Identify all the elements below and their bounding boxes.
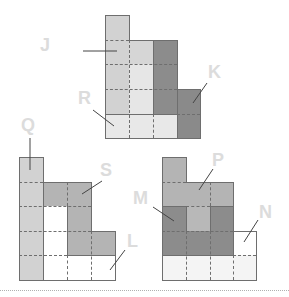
leader-m xyxy=(153,207,174,221)
leader-l xyxy=(110,250,125,270)
leader-p xyxy=(199,169,213,190)
leader-n xyxy=(244,220,258,242)
leader-k xyxy=(193,83,207,103)
leader-s xyxy=(82,181,102,194)
leader-r xyxy=(93,110,114,126)
leader-lines xyxy=(0,0,289,297)
dotted-separator xyxy=(0,290,289,291)
